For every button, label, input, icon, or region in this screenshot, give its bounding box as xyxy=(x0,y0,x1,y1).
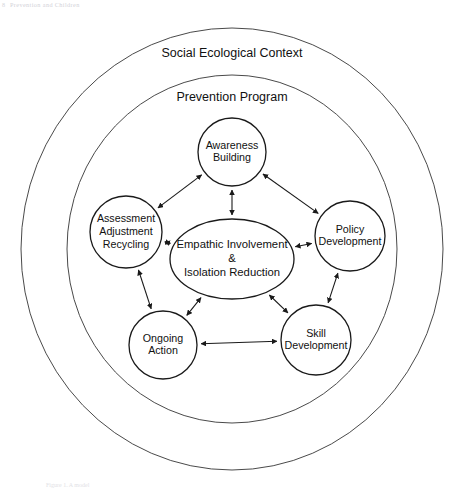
node-label-ongoing-action-line-0: Ongoing xyxy=(143,332,183,344)
figure-root: 8 Prevention and Children AwarenessBuild… xyxy=(0,0,465,493)
node-label-skill-development-line-1: Development xyxy=(285,339,348,351)
link-center-assessment-adjustment-recycling xyxy=(165,242,171,243)
link-center-ongoing-action xyxy=(187,298,201,316)
node-label-assessment-adjustment-recycling-line-0: Assessment xyxy=(97,212,155,224)
node-policy-development[interactable]: PolicyDevelopment xyxy=(315,201,385,271)
link-center-skill-development xyxy=(269,295,288,313)
node-label-policy-development-line-0: Policy xyxy=(336,223,365,235)
node-label-ongoing-action: OngoingAction xyxy=(143,332,183,357)
node-label-assessment-adjustment-recycling-line-1: Adjustment xyxy=(99,225,152,237)
ring-label-prevention-program: Prevention Program xyxy=(176,90,287,104)
node-label-skill-development-line-0: Skill xyxy=(306,327,326,339)
node-layer: AwarenessBuildingPolicyDevelopmentSkillD… xyxy=(90,118,385,379)
link-center-policy-development xyxy=(295,243,311,246)
node-ongoing-action[interactable]: OngoingAction xyxy=(129,311,197,379)
figure-caption: Figure 1. A model xyxy=(46,482,89,488)
node-assessment-adjustment-recycling[interactable]: AssessmentAdjustmentRecycling xyxy=(90,196,162,268)
node-label-awareness-building: AwarenessBuilding xyxy=(206,139,259,164)
node-label-ongoing-action-line-1: Action xyxy=(148,344,178,356)
node-label-empathic-involvement-isolation-reduction-line-1: & xyxy=(228,252,236,264)
node-label-assessment-adjustment-recycling-line-2: Recycling xyxy=(103,237,149,249)
ring-label-social-ecological-context: Social Ecological Context xyxy=(161,46,303,60)
node-label-empathic-involvement-isolation-reduction-line-2: Isolation Reduction xyxy=(184,266,280,278)
node-label-policy-development-line-1: Development xyxy=(319,235,382,247)
node-label-awareness-building-line-1: Building xyxy=(213,151,251,163)
node-awareness-building[interactable]: AwarenessBuilding xyxy=(198,118,266,186)
node-skill-development[interactable]: SkillDevelopment xyxy=(281,305,351,375)
link-assessment-adjustment-recycling-awareness-building xyxy=(158,175,202,208)
link-skill-development-ongoing-action xyxy=(201,341,277,343)
link-awareness-building-policy-development xyxy=(263,174,318,213)
link-ongoing-action-assessment-adjustment-recycling xyxy=(138,270,151,309)
cycle-diagram: AwarenessBuildingPolicyDevelopmentSkillD… xyxy=(0,0,465,493)
node-empathic-involvement-isolation-reduction[interactable]: Empathic Involvement&Isolation Reduction xyxy=(170,219,294,299)
node-label-awareness-building-line-0: Awareness xyxy=(206,139,259,151)
link-policy-development-skill-development xyxy=(328,273,338,303)
node-label-assessment-adjustment-recycling: AssessmentAdjustmentRecycling xyxy=(97,212,155,249)
node-label-empathic-involvement-isolation-reduction-line-0: Empathic Involvement xyxy=(176,238,288,250)
